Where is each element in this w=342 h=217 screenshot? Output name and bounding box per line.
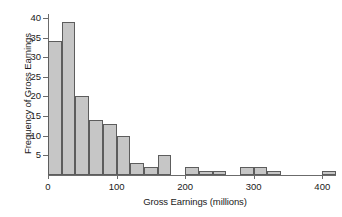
y-tick-mark — [43, 57, 48, 58]
y-tick-label: 35 — [30, 32, 41, 43]
x-tick-mark — [322, 175, 323, 179]
x-tick-label: 100 — [109, 181, 125, 192]
histogram-bar — [130, 163, 144, 175]
y-tick-label: 5 — [36, 149, 41, 160]
y-tick-label: 15 — [30, 110, 41, 121]
histogram-bar — [267, 171, 281, 175]
histogram-bar — [48, 41, 62, 175]
y-tick-label: 25 — [30, 71, 41, 82]
y-tick-mark — [43, 96, 48, 97]
histogram-bar — [75, 96, 89, 175]
y-tick-mark — [43, 38, 48, 39]
histogram-bar — [89, 120, 103, 175]
y-tick-label: 20 — [30, 90, 41, 101]
histogram-bar — [185, 167, 199, 175]
y-tick-mark — [43, 136, 48, 137]
x-tick-label: 300 — [246, 181, 262, 192]
y-tick-mark — [43, 18, 48, 19]
histogram-bar — [240, 167, 254, 175]
y-tick-mark — [43, 155, 48, 156]
x-axis-title: Gross Earnings (millions) — [48, 196, 342, 207]
x-tick-mark — [48, 175, 49, 179]
histogram-chart: Frequency of Gross Earnings 510152025303… — [0, 0, 342, 217]
x-tick-label: 200 — [177, 181, 193, 192]
y-tick-mark — [43, 77, 48, 78]
x-tick-mark — [185, 175, 186, 179]
y-tick-label: 40 — [30, 12, 41, 23]
x-tick-label: 400 — [314, 181, 330, 192]
histogram-bar — [254, 167, 268, 175]
histogram-bar — [322, 171, 336, 175]
histogram-bar — [213, 171, 227, 175]
y-tick-label: 10 — [30, 130, 41, 141]
x-tick-mark — [254, 175, 255, 179]
y-tick-label: 30 — [30, 51, 41, 62]
histogram-bar — [62, 22, 76, 175]
plot-area: 510152025303540 0100200300400 — [48, 14, 336, 176]
x-tick-label: 0 — [45, 181, 50, 192]
histogram-bar — [144, 167, 158, 175]
histogram-bar — [103, 124, 117, 175]
y-tick-mark — [43, 116, 48, 117]
histogram-bar — [158, 155, 172, 175]
histogram-bar — [117, 136, 131, 175]
histogram-bar — [199, 171, 213, 175]
x-tick-mark — [117, 175, 118, 179]
x-axis-line — [48, 175, 336, 176]
